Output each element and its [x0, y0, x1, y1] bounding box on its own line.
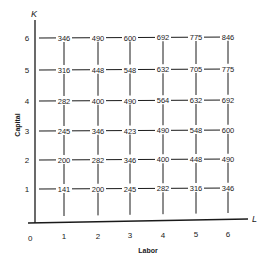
x-axis-symbol: L	[252, 214, 257, 224]
output-value: 346	[92, 127, 105, 136]
x-tick-label: 3	[128, 231, 133, 240]
x-tick-label: 1	[62, 232, 67, 241]
output-value: 141	[58, 185, 71, 194]
output-value: 448	[190, 155, 203, 164]
output-value: 448	[92, 66, 105, 75]
output-value: 705	[190, 65, 203, 74]
output-value: 423	[124, 127, 137, 136]
y-tick-label: 2	[25, 156, 30, 165]
output-value: 775	[190, 33, 203, 42]
x-tick-labels: 123456	[62, 230, 231, 242]
output-value: 346	[58, 34, 71, 43]
output-value: 400	[92, 97, 105, 106]
output-value: 600	[124, 34, 137, 43]
output-value: 245	[124, 185, 137, 194]
output-value: 548	[190, 126, 203, 135]
x-tick-label: 2	[96, 232, 101, 241]
output-value: 775	[222, 65, 235, 74]
output-values: 3464906006927758463164485486327057752824…	[56, 32, 236, 194]
output-value: 548	[124, 66, 137, 75]
y-tick-label: 5	[25, 66, 30, 75]
output-value: 346	[222, 184, 235, 193]
output-value: 692	[222, 96, 235, 105]
output-value: 846	[222, 33, 235, 42]
output-value: 200	[92, 185, 105, 194]
output-value: 632	[157, 65, 170, 74]
output-value: 490	[157, 126, 170, 135]
y-tick-label: 6	[25, 34, 30, 43]
output-value: 282	[58, 97, 71, 106]
output-value: 346	[124, 156, 137, 165]
x-tick-label: 5	[194, 230, 199, 239]
x-tick-label: 6	[226, 230, 231, 239]
output-value: 692	[157, 33, 170, 42]
output-value: 245	[58, 127, 71, 136]
y-axis-title: Capital	[14, 113, 22, 136]
x-tick-label: 4	[161, 231, 166, 240]
origin-label: 0	[28, 234, 33, 243]
output-value: 564	[157, 96, 170, 105]
y-tick-label: 3	[25, 127, 30, 136]
x-axis-title: Labor	[138, 247, 158, 254]
y-tick-labels: 654321	[25, 34, 30, 194]
output-value: 316	[58, 66, 71, 75]
output-value: 632	[190, 96, 203, 105]
output-value: 600	[222, 126, 235, 135]
production-isoquant-grid-chart: K L 0 Labor Capital 123456 654321 346490…	[0, 0, 273, 263]
output-value: 282	[157, 184, 170, 193]
output-value: 490	[222, 155, 235, 164]
output-value: 316	[190, 184, 203, 193]
output-value: 490	[92, 34, 105, 43]
y-tick-label: 1	[25, 185, 30, 194]
output-value: 200	[58, 156, 71, 165]
output-value: 282	[92, 156, 105, 165]
output-value: 490	[124, 97, 137, 106]
x-axis-line	[28, 219, 248, 223]
output-value: 400	[157, 155, 170, 164]
y-tick-label: 4	[25, 97, 30, 106]
y-axis-symbol: K	[31, 9, 38, 19]
